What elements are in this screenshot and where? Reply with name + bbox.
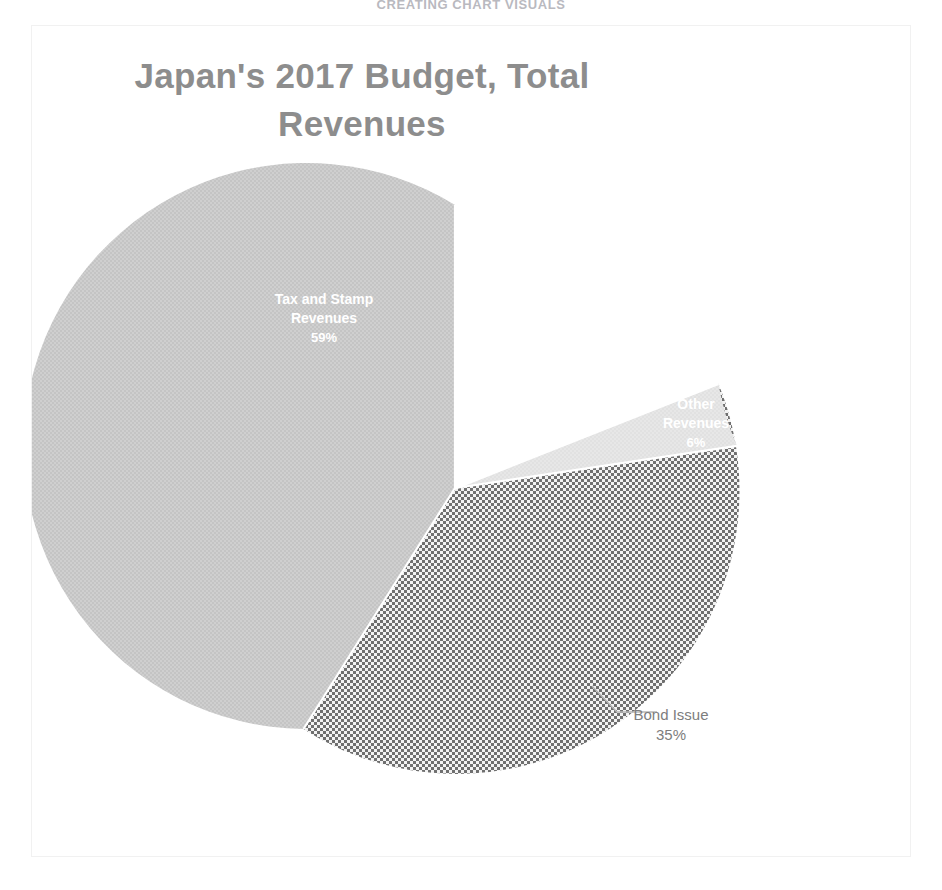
pie-chart-svg	[32, 26, 912, 858]
scan-header-text: CREATING CHART VISUALS	[376, 0, 565, 9]
scan-header-strip: CREATING CHART VISUALS	[0, 0, 942, 9]
figure-card: Japan's 2017 Budget, Total Revenues	[31, 25, 911, 857]
pie-chart: Tax and Stamp Revenues 59% Other Revenue…	[32, 26, 912, 858]
